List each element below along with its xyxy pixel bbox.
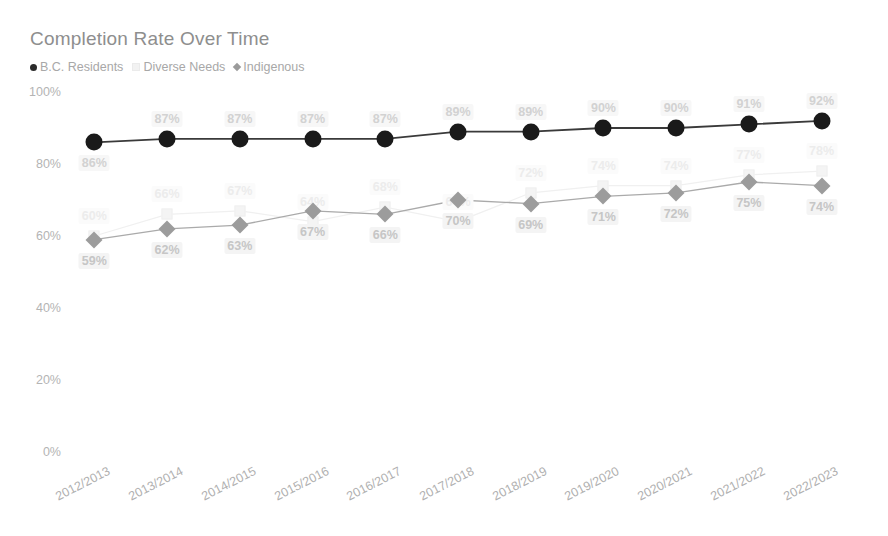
y-axis-tick-label: 40% (36, 301, 61, 315)
data-point-label: 66% (370, 227, 401, 243)
data-point-marker[interactable] (668, 120, 685, 137)
x-axis-tick-label: 2015/2016 (260, 464, 331, 509)
data-point-label: 90% (588, 100, 619, 116)
x-axis-tick-label: 2019/2020 (551, 464, 622, 509)
y-axis-tick-label: 20% (36, 373, 61, 387)
data-point-marker[interactable] (813, 112, 830, 129)
legend-square-marker-icon (132, 63, 140, 71)
data-point-marker[interactable] (234, 205, 245, 216)
y-axis-tick-label: 80% (36, 157, 61, 171)
chart-title: Completion Rate Over Time (30, 28, 269, 50)
data-point-label: 78% (806, 143, 837, 159)
data-point-label: 68% (370, 179, 401, 195)
data-point-marker[interactable] (162, 209, 173, 220)
x-axis-tick-label: 2012/2013 (42, 464, 113, 509)
data-point-marker[interactable] (522, 123, 539, 140)
data-point-label: 74% (661, 158, 692, 174)
data-point-label: 89% (442, 104, 473, 120)
data-point-label: 87% (152, 111, 183, 127)
data-point-marker[interactable] (159, 130, 176, 147)
data-point-marker[interactable] (740, 116, 757, 133)
data-point-marker[interactable] (595, 120, 612, 137)
y-axis-tick-label: 60% (36, 229, 61, 243)
y-axis-tick-label: 100% (29, 85, 61, 99)
legend-item-indigenous[interactable]: Indigenous (234, 60, 304, 74)
data-point-label: 62% (152, 242, 183, 258)
data-point-label: 60% (79, 208, 110, 224)
data-point-marker[interactable] (231, 130, 248, 147)
data-point-marker[interactable] (450, 123, 467, 140)
plot-area: 100%80%60%40%20%0%2012/20132013/20142014… (70, 92, 870, 452)
x-axis-tick-label: 2014/2015 (188, 464, 259, 509)
data-point-marker[interactable] (86, 134, 103, 151)
x-axis-tick-label: 2020/2021 (624, 464, 695, 509)
data-point-label: 91% (733, 96, 764, 112)
data-point-marker[interactable] (377, 130, 394, 147)
data-point-label: 92% (806, 93, 837, 109)
data-point-label: 66% (152, 186, 183, 202)
data-point-label: 89% (515, 104, 546, 120)
data-point-label: 74% (588, 158, 619, 174)
data-point-label: 86% (79, 155, 110, 171)
data-point-label: 87% (370, 111, 401, 127)
data-point-label: 67% (297, 224, 328, 240)
legend-item-diverse-needs[interactable]: Diverse Needs (132, 60, 225, 74)
x-axis-tick-label: 2021/2022 (697, 464, 768, 509)
x-axis-tick-label: 2017/2018 (406, 464, 477, 509)
data-point-label: 59% (79, 253, 110, 269)
data-point-label: 70% (442, 213, 473, 229)
data-point-label: 63% (224, 238, 255, 254)
data-point-label: 87% (224, 111, 255, 127)
x-axis-tick-label: 2018/2019 (479, 464, 550, 509)
data-point-label: 71% (588, 209, 619, 225)
legend-circle-marker-icon (30, 64, 37, 71)
x-axis-tick-label: 2016/2017 (333, 464, 404, 509)
data-point-label: 67% (224, 183, 255, 199)
legend-label-diverse-needs: Diverse Needs (143, 60, 225, 74)
legend-diamond-marker-icon (233, 63, 241, 71)
x-axis-tick-label: 2022/2023 (769, 464, 840, 509)
data-point-label: 90% (661, 100, 692, 116)
legend-label-bc-residents: B.C. Residents (40, 60, 123, 74)
legend-label-indigenous: Indigenous (243, 60, 304, 74)
x-axis-tick-label: 2013/2014 (115, 464, 186, 509)
y-axis-tick-label: 0% (43, 445, 61, 459)
chart-legend: B.C. Residents Diverse Needs Indigenous (30, 60, 305, 74)
data-point-label: 87% (297, 111, 328, 127)
data-point-label: 72% (515, 165, 546, 181)
data-point-label: 72% (661, 206, 692, 222)
data-point-marker[interactable] (304, 130, 321, 147)
data-point-label: 77% (733, 147, 764, 163)
data-point-label: 75% (733, 195, 764, 211)
data-point-label: 74% (806, 199, 837, 215)
data-point-label: 69% (515, 217, 546, 233)
data-point-marker[interactable] (816, 166, 827, 177)
chart-container: Completion Rate Over Time B.C. Residents… (0, 0, 888, 536)
legend-item-bc-residents[interactable]: B.C. Residents (30, 60, 123, 74)
